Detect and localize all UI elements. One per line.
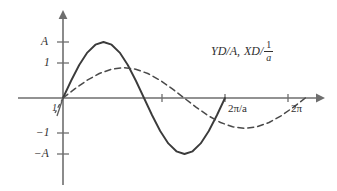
annotation-part-2: XD/ xyxy=(244,44,263,59)
sine-curve-figure: A 1 −1 −A 1 2π/a 2π YD/A, XD/ 1 a xyxy=(0,0,337,191)
y-axis-arrowhead xyxy=(59,10,68,19)
y-label-minus-one: −1 xyxy=(36,127,50,139)
y-label-minus-amplitude-A: −A xyxy=(34,148,49,160)
origin-mark-label: 1 xyxy=(52,103,57,113)
x-axis-arrowhead xyxy=(316,94,325,103)
x-label-2pi: 2π xyxy=(291,103,302,114)
annotation-fraction: 1 a xyxy=(264,40,273,63)
fraction-denominator: a xyxy=(264,51,273,63)
fraction-numerator: 1 xyxy=(264,40,273,51)
annotation-part-1: YD/A, xyxy=(211,44,240,59)
y-label-amplitude-A: A xyxy=(41,36,48,48)
y-label-one: 1 xyxy=(44,57,50,69)
x-label-2pi-over-a: 2π/a xyxy=(228,103,247,114)
curve-annotation: YD/A, XD/ 1 a xyxy=(211,40,273,63)
plot-canvas xyxy=(0,0,337,191)
